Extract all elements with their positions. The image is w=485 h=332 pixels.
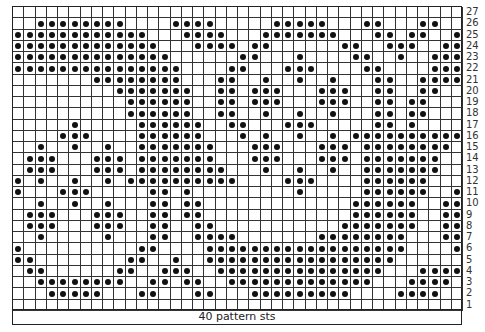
chart-cell xyxy=(114,232,125,243)
chart-cell xyxy=(182,255,193,266)
purl-dot-icon xyxy=(364,257,370,263)
chart-cell xyxy=(148,288,159,299)
chart-cell xyxy=(249,41,260,52)
purl-dot-icon xyxy=(173,268,179,274)
chart-cell xyxy=(159,243,170,254)
chart-cell xyxy=(69,75,80,86)
chart-cell xyxy=(171,221,182,232)
chart-cell xyxy=(272,221,283,232)
purl-dot-icon xyxy=(184,133,190,139)
purl-dot-icon xyxy=(330,111,336,117)
purl-dot-icon xyxy=(387,156,393,162)
chart-cell xyxy=(384,63,395,74)
chart-cell xyxy=(47,75,58,86)
chart-cell xyxy=(204,288,215,299)
chart-cell xyxy=(159,221,170,232)
purl-dot-icon xyxy=(184,189,190,195)
chart-cell xyxy=(137,142,148,153)
chart-cell xyxy=(418,86,429,97)
purl-dot-icon xyxy=(150,212,156,218)
purl-dot-icon xyxy=(398,201,404,207)
chart-cell xyxy=(216,142,227,153)
chart-cell xyxy=(137,97,148,108)
chart-cell xyxy=(114,288,125,299)
chart-cell xyxy=(294,63,305,74)
chart-cell xyxy=(193,75,204,86)
chart-cell xyxy=(227,198,238,209)
chart-cell xyxy=(24,97,35,108)
chart-cell xyxy=(47,131,58,142)
purl-dot-icon xyxy=(297,21,303,27)
chart-cell xyxy=(429,75,440,86)
chart-cell xyxy=(362,75,373,86)
chart-cell xyxy=(384,120,395,131)
chart-cell xyxy=(69,153,80,164)
chart-cell xyxy=(351,142,362,153)
chart-cell xyxy=(238,165,249,176)
chart-cell xyxy=(137,255,148,266)
chart-cell xyxy=(227,120,238,131)
chart-cell xyxy=(103,266,114,277)
chart-cell xyxy=(36,120,47,131)
purl-dot-icon xyxy=(319,144,325,150)
chart-cell xyxy=(227,18,238,29)
purl-dot-icon xyxy=(162,234,168,240)
chart-cell xyxy=(216,153,227,164)
purl-dot-icon xyxy=(263,32,269,38)
chart-cell xyxy=(148,153,159,164)
chart-cell xyxy=(351,97,362,108)
chart-cell xyxy=(159,63,170,74)
chart-cell xyxy=(69,232,80,243)
chart-cell xyxy=(249,75,260,86)
chart-cell xyxy=(24,266,35,277)
purl-dot-icon xyxy=(342,234,348,240)
chart-cell xyxy=(137,288,148,299)
purl-dot-icon xyxy=(162,167,168,173)
row-number: 9 xyxy=(466,209,472,220)
chart-cell xyxy=(407,187,418,198)
chart-cell xyxy=(47,142,58,153)
purl-dot-icon xyxy=(195,291,201,297)
chart-cell xyxy=(339,187,350,198)
chart-cell xyxy=(182,266,193,277)
purl-dot-icon xyxy=(240,54,246,60)
chart-cell xyxy=(81,108,92,119)
purl-dot-icon xyxy=(263,99,269,105)
chart-cell xyxy=(137,187,148,198)
chart-cell xyxy=(171,187,182,198)
row-number: 17 xyxy=(466,119,479,130)
chart-cell xyxy=(227,266,238,277)
purl-dot-icon xyxy=(285,257,291,263)
purl-dot-icon xyxy=(274,99,280,105)
chart-cell xyxy=(171,288,182,299)
chart-cell xyxy=(13,165,24,176)
purl-dot-icon xyxy=(173,167,179,173)
chart-cell xyxy=(328,75,339,86)
purl-dot-icon xyxy=(139,246,145,252)
chart-cell xyxy=(373,30,384,41)
chart-cell xyxy=(193,41,204,52)
purl-dot-icon xyxy=(150,167,156,173)
chart-cell xyxy=(103,41,114,52)
chart-cell xyxy=(441,187,452,198)
chart-cell xyxy=(441,63,452,74)
purl-dot-icon xyxy=(128,257,134,263)
purl-dot-icon xyxy=(308,291,314,297)
purl-dot-icon xyxy=(15,43,21,49)
chart-cell xyxy=(238,187,249,198)
chart-cell xyxy=(283,52,294,63)
purl-dot-icon xyxy=(15,257,21,263)
chart-cell xyxy=(373,52,384,63)
purl-dot-icon xyxy=(105,144,111,150)
purl-dot-icon xyxy=(443,144,449,150)
chart-cell xyxy=(249,232,260,243)
chart-cell xyxy=(137,198,148,209)
purl-dot-icon xyxy=(319,246,325,252)
purl-dot-icon xyxy=(330,32,336,38)
chart-cell xyxy=(204,86,215,97)
chart-cell xyxy=(283,108,294,119)
purl-dot-icon xyxy=(353,54,359,60)
chart-cell xyxy=(396,165,407,176)
purl-dot-icon xyxy=(387,246,393,252)
chart-cell xyxy=(351,153,362,164)
